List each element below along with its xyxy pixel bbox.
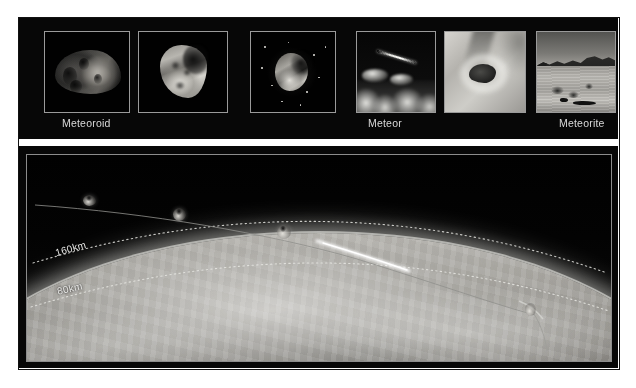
meteorite-body <box>525 303 536 316</box>
trajectory-overlay <box>27 155 611 361</box>
altitude-arc-160km <box>33 221 607 273</box>
meteoroid-stage-2-shadow <box>176 209 182 215</box>
atmosphere-entry-diagram: 160km 80km <box>18 146 618 368</box>
caption-meteoroid: Meteoroid <box>62 117 111 129</box>
meteor-burn-core <box>323 243 407 270</box>
meteoroid-stage-1-shadow <box>86 196 92 201</box>
meteoroid-stages-strip: Meteoroid Meteor Meteorite <box>18 17 618 139</box>
altitude-arc-80km <box>31 263 609 311</box>
meteor-streak-icon <box>357 32 435 112</box>
asteroid-dust-icon <box>251 32 335 112</box>
desert-landscape-icon <box>537 32 615 112</box>
thumbnail-fireball[interactable] <box>444 31 526 113</box>
thumbnail-desert-landscape[interactable] <box>536 31 616 113</box>
caption-meteor: Meteor <box>368 117 402 129</box>
trajectory-path <box>35 205 535 315</box>
asteroid-bright-icon <box>139 32 227 112</box>
asteroid-dark-icon <box>45 32 129 112</box>
fireball-icon <box>445 32 525 112</box>
thumbnail-asteroid-dark[interactable] <box>44 31 130 113</box>
thumbnail-asteroid-bright[interactable] <box>138 31 228 113</box>
earth-atmosphere-scene: 160km 80km <box>26 154 612 362</box>
meteor-entry-shadow <box>280 226 286 232</box>
thumbnail-asteroid-dust[interactable] <box>250 31 336 113</box>
caption-meteorite: Meteorite <box>559 117 605 129</box>
figure-root: Meteoroid Meteor Meteorite <box>0 0 636 388</box>
thumbnail-meteor-streak[interactable] <box>356 31 436 113</box>
